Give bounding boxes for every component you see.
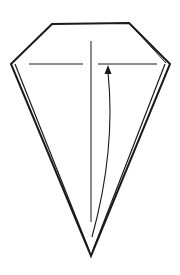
background	[0, 0, 180, 275]
origami-diagram	[0, 0, 180, 275]
